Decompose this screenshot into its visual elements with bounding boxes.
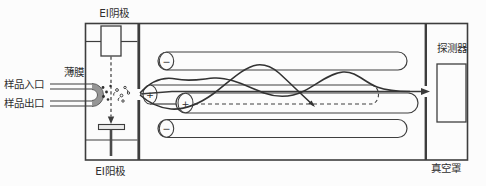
schematic-canvas: − − + + EI阴极 薄膜 样: [0, 0, 486, 186]
label-sample-inlet: 样品入口: [4, 78, 44, 90]
ei-cathode-box: [101, 26, 121, 56]
front-middle-rod: [176, 93, 418, 113]
label-ei-cathode: EI阴极: [99, 7, 130, 19]
label-detector: 探测器: [437, 42, 468, 54]
label-sample-outlet: 样品出口: [4, 97, 44, 109]
detector-box: [437, 64, 466, 122]
top-rod: [158, 52, 407, 70]
mass-spectrometer-schematic: − − + + EI阴极 薄膜 样: [0, 0, 486, 186]
top-rod-sign: −: [163, 56, 171, 67]
bottom-rod-sign: −: [163, 123, 171, 134]
ei-anode-plate: [99, 125, 125, 130]
bottom-rod: [158, 120, 407, 138]
label-membrane: 薄膜: [64, 66, 85, 78]
quadrupole-rods: − − + +: [143, 52, 418, 138]
back-middle-rod-sign: +: [146, 89, 154, 100]
label-vacuum-housing: 真空罩: [431, 162, 461, 174]
label-ei-anode: EI阳极: [95, 165, 126, 177]
